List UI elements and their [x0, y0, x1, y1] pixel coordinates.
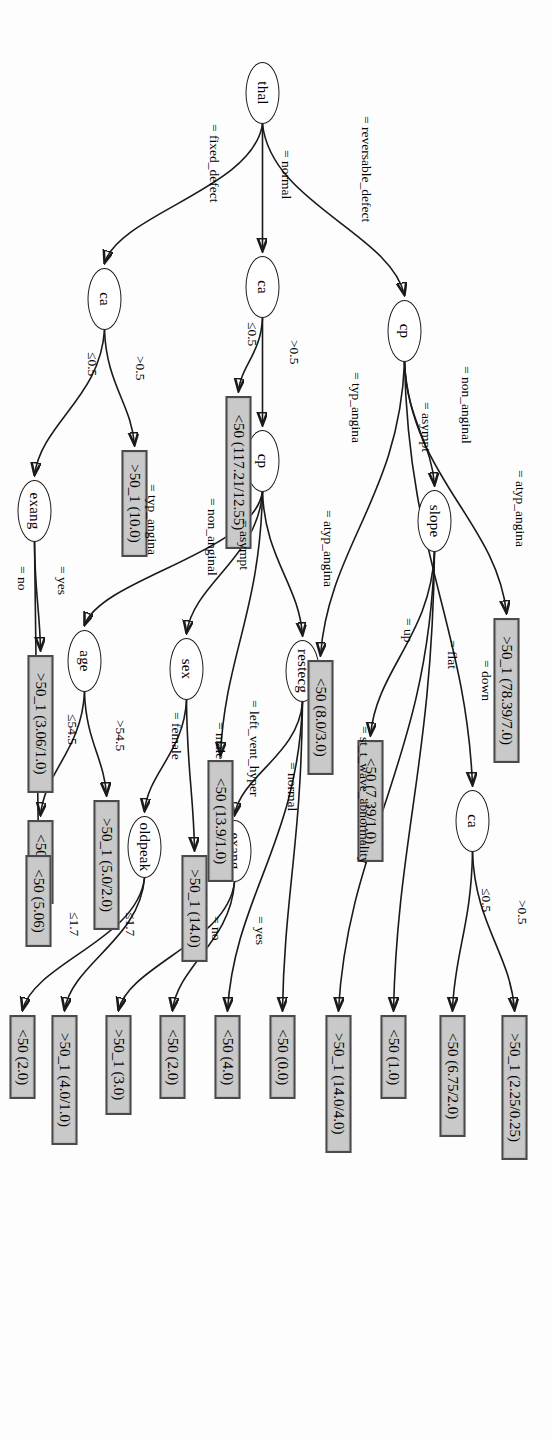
- node-label: ca: [464, 814, 481, 828]
- edge-label: = normal: [283, 762, 299, 811]
- edge-label: >54.5: [111, 720, 127, 751]
- leaf-label: >50_1 (3.0): [110, 1029, 127, 1100]
- edge-label: >0.5: [513, 900, 529, 925]
- node-label: cp: [396, 324, 413, 339]
- decision-node-exang[interactable]: exang: [17, 480, 51, 542]
- edge-label: = left_vent_hyper: [245, 700, 261, 796]
- node-label: exang: [26, 493, 43, 530]
- leaf-label: >50_1 (3.06/1.0): [32, 673, 49, 774]
- decision-node-age[interactable]: age: [67, 630, 101, 692]
- leaf-node[interactable]: >50_1 (14.0/4.0): [325, 1015, 351, 1153]
- edge-label: = reversable_defect: [357, 116, 373, 222]
- leaf-node[interactable]: <50 (1.0): [380, 1015, 406, 1099]
- tree-edge: [472, 852, 514, 1010]
- tree-edge: [186, 700, 194, 850]
- edge-label: = no: [13, 566, 29, 591]
- decision-node-ca[interactable]: ca: [87, 268, 121, 330]
- edge-label: = female: [167, 712, 183, 760]
- tree-edge: [262, 492, 302, 635]
- tree-edge: [370, 552, 434, 735]
- leaf-label: <50 (2.0): [14, 1029, 31, 1085]
- node-label: ca: [254, 280, 271, 294]
- leaf-node[interactable]: >50_1 (78.39/7.0): [493, 618, 519, 763]
- edge-label: = st_t_wave_abnormality: [355, 726, 371, 864]
- leaf-label: >50_1 (14.0): [186, 869, 203, 947]
- edge-label: >0.5: [285, 340, 301, 365]
- edge-label: ≤0.5: [477, 888, 493, 912]
- leaf-label: >50_1 (78.39/7.0): [498, 636, 515, 745]
- tree-edge: [104, 330, 134, 445]
- edge-label: = flat: [443, 640, 459, 669]
- leaf-node[interactable]: >50_1 (4.0/1.0): [51, 1015, 77, 1145]
- edge-label: = non_anginal: [457, 366, 473, 444]
- edge-label: ≤1.7: [65, 912, 81, 936]
- edge-label: = normal: [277, 150, 293, 199]
- edge-label: = asympt: [235, 520, 251, 570]
- leaf-label: >50_1 (10.0): [126, 464, 143, 542]
- leaf-node[interactable]: >50_1 (2.25/0.25): [501, 1015, 527, 1160]
- leaf-node[interactable]: <50 (13.9/1.0): [207, 760, 233, 882]
- edge-label: = fixed_defect: [205, 124, 221, 202]
- tree-edge: [452, 852, 472, 1010]
- edge-label: = non_anginal: [203, 498, 219, 576]
- leaf-node[interactable]: >50_1 (3.06/1.0): [27, 655, 53, 793]
- edge-label: ≤0.5: [243, 322, 259, 346]
- leaf-node[interactable]: <50 (2.0): [9, 1015, 35, 1099]
- leaf-label: <50 (5.06): [30, 869, 47, 932]
- edge-label: = typ_angina: [347, 372, 363, 443]
- node-label: thal: [254, 81, 271, 104]
- leaf-node[interactable]: <50 (8.0/3.0): [307, 660, 333, 775]
- node-label: sex: [178, 659, 195, 680]
- edge-label: ≤0.5: [83, 352, 99, 376]
- leaf-node[interactable]: >50_1 (14.0): [181, 855, 207, 962]
- leaf-label: >50_1 (2.25/0.25): [506, 1033, 523, 1142]
- leaf-node[interactable]: >50_1 (5.0/2.0): [93, 800, 119, 930]
- decision-node-slope[interactable]: slope: [417, 490, 451, 552]
- leaf-label: <50 (0.0): [274, 1029, 291, 1085]
- edge-label: ≤54.5: [63, 714, 79, 745]
- edge-label: >0.5: [131, 356, 147, 381]
- edge-label: = up: [399, 618, 415, 643]
- edge-layer: [0, 0, 551, 1440]
- edge-label: = asympt: [417, 402, 433, 452]
- decision-node-thal[interactable]: thal: [245, 62, 279, 124]
- leaf-label: <50 (1.0): [385, 1029, 402, 1085]
- leaf-node[interactable]: <50 (0.0): [269, 1015, 295, 1099]
- leaf-label: <50 (13.9/1.0): [212, 778, 229, 864]
- node-label: ca: [96, 292, 113, 306]
- decision-node-cp[interactable]: cp: [387, 300, 421, 362]
- edge-label: ≤1.7: [121, 912, 137, 936]
- decision-node-ca[interactable]: ca: [245, 256, 279, 318]
- edge-label: = typ_angina: [143, 484, 159, 555]
- leaf-node[interactable]: <50 (2.0): [159, 1015, 185, 1099]
- leaf-node[interactable]: >50_1 (3.0): [105, 1015, 131, 1115]
- edge-label: = yes: [251, 916, 267, 945]
- node-label: age: [76, 650, 93, 671]
- edge-label: = male: [211, 722, 227, 759]
- leaf-node[interactable]: <50 (5.06): [25, 855, 51, 947]
- edge-label: = down: [477, 660, 493, 701]
- node-label: cp: [254, 454, 271, 469]
- tree-edge: [118, 882, 234, 1010]
- decision-node-ca[interactable]: ca: [455, 790, 489, 852]
- rotated-diagram-wrapper: thalcpcacaslopecacprestecgexangsexoldpea…: [0, 0, 551, 1440]
- leaf-label: <50 (8.0/3.0): [312, 678, 329, 757]
- leaf-label: >50_1 (5.0/2.0): [98, 818, 115, 912]
- decision-node-oldpeak[interactable]: oldpeak: [127, 816, 161, 878]
- leaf-label: <50 (4.0): [219, 1029, 236, 1085]
- edge-label: = no: [207, 916, 223, 941]
- tree-canvas: thalcpcacaslopecacprestecgexangsexoldpea…: [0, 0, 551, 1440]
- tree-edge: [104, 124, 262, 263]
- leaf-label: <50 (2.0): [164, 1029, 181, 1085]
- tree-edge: [84, 692, 106, 795]
- node-label: oldpeak: [136, 823, 153, 872]
- tree-edge: [404, 362, 506, 613]
- tree-edge: [338, 552, 434, 1010]
- decision-node-sex[interactable]: sex: [169, 638, 203, 700]
- leaf-node[interactable]: <50 (6.75/2.0): [439, 1015, 465, 1137]
- edge-label: = atyp_angina: [511, 470, 527, 547]
- leaf-node[interactable]: <50 (4.0): [214, 1015, 240, 1099]
- figure-canvas: thalcpcacaslopecacprestecgexangsexoldpea…: [0, 0, 551, 1440]
- edge-label: = atyp_angina: [319, 510, 335, 587]
- node-label: slope: [426, 505, 443, 538]
